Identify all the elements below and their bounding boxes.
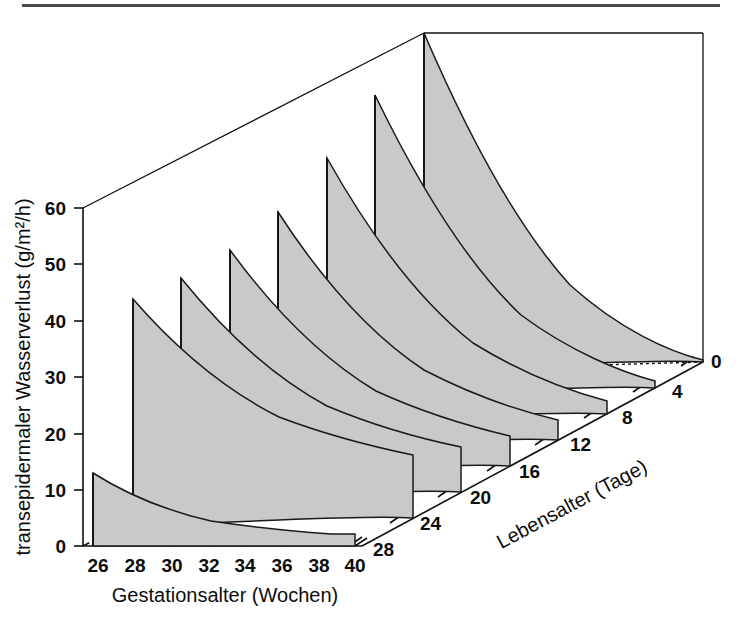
z-axis-title: Lebensalter (Tage)	[493, 455, 651, 553]
z-tick-label-28: 28	[373, 539, 394, 560]
x-tick-label-26: 26	[87, 555, 108, 576]
y-axis-title: transepidermaler Wasserverlust (g/m²/h)	[12, 198, 34, 555]
z-tick-label-12: 12	[570, 434, 591, 455]
chart-canvas: 0 10 20 30 40 50 60 26 28 30 32 34 36 38…	[0, 0, 741, 622]
y-tick-label-30: 30	[45, 367, 66, 388]
x-tick-label-32: 32	[198, 555, 219, 576]
y-tick-label-40: 40	[45, 311, 66, 332]
x-tick-label-38: 38	[308, 555, 329, 576]
y-tick-label-60: 60	[45, 198, 66, 219]
z-tick-label-24: 24	[420, 513, 442, 534]
y-tick-label-50: 50	[45, 254, 66, 275]
x-tick-labels: 26 28 30 32 34 36 38 40	[87, 555, 365, 576]
x-tick-label-36: 36	[271, 555, 292, 576]
x-tick-label-28: 28	[124, 555, 145, 576]
figure-root: 0 10 20 30 40 50 60 26 28 30 32 34 36 38…	[0, 0, 741, 622]
z-tick-label-0: 0	[711, 351, 722, 372]
box-top-left-edge	[83, 33, 424, 208]
y-axis-ticks	[74, 208, 83, 546]
x-tick-label-34: 34	[234, 555, 256, 576]
z-tick-label-20: 20	[470, 487, 491, 508]
y-tick-label-10: 10	[45, 480, 66, 501]
y-tick-label-20: 20	[45, 424, 66, 445]
x-tick-label-40: 40	[344, 555, 365, 576]
z-tick-label-4: 4	[672, 381, 683, 402]
y-tick-label-0: 0	[55, 536, 66, 557]
x-axis-title: Gestationsalter (Wochen)	[112, 584, 338, 606]
y-tick-labels: 0 10 20 30 40 50 60	[45, 198, 66, 557]
z-tick-label-8: 8	[622, 407, 633, 428]
x-tick-label-30: 30	[161, 555, 182, 576]
z-tick-label-16: 16	[519, 461, 540, 482]
